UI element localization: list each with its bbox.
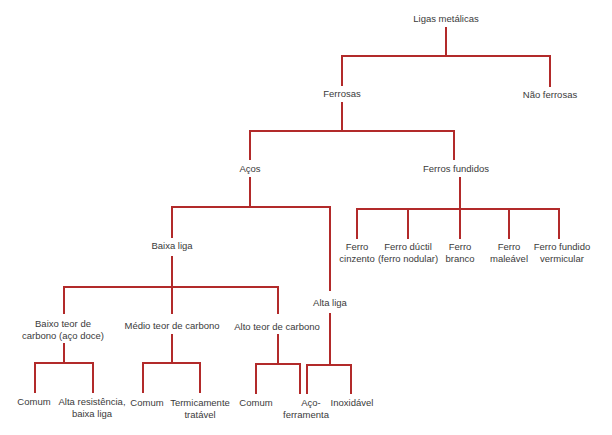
- node-alto-comum: Comum: [239, 397, 272, 409]
- label-line: Ferro fundido: [534, 241, 591, 253]
- label-line: Ferro: [339, 241, 374, 253]
- node-baixa-liga: Baixa liga: [151, 240, 192, 252]
- label-line: Termicamente: [170, 397, 230, 409]
- label-line: tratável: [170, 409, 230, 421]
- node-ligas-metalicas: Ligas metálicas: [413, 13, 478, 25]
- label-line: Aço-: [283, 397, 329, 409]
- node-ferro-ductil: Ferro dúctil(ferro nodular): [378, 241, 438, 265]
- node-ferro-branco: Ferrobranco: [445, 241, 474, 265]
- node-baixo-comum: Comum: [17, 396, 50, 408]
- node-ferro-cinzento: Ferrocinzento: [339, 241, 374, 265]
- node-ferro-maleavel: Ferromaleável: [490, 241, 528, 265]
- label-line: vermicular: [534, 253, 591, 265]
- label-line: branco: [445, 253, 474, 265]
- node-nao-ferrosas: Não ferrosas: [523, 89, 577, 101]
- node-acos: Aços: [239, 163, 260, 175]
- node-ferrosas: Ferrosas: [323, 88, 360, 100]
- label-line: cinzento: [339, 253, 374, 265]
- node-inoxidavel: Inoxidável: [331, 397, 374, 409]
- label-line: (ferro nodular): [378, 253, 438, 265]
- node-alta-liga: Alta liga: [313, 297, 347, 309]
- node-alta-resistencia: Alta resistência,baixa liga: [58, 396, 125, 420]
- node-aco-ferramenta: Aço-ferramenta: [283, 397, 329, 421]
- node-baixo-teor-carbono: Baixo teor decarbono (aço doce): [22, 318, 104, 342]
- node-medio-comum: Comum: [130, 397, 163, 409]
- label-line: ferramenta: [283, 409, 329, 421]
- label-line: Ferro: [445, 241, 474, 253]
- label-line: Ferro dúctil: [378, 241, 438, 253]
- label-line: maleável: [490, 253, 528, 265]
- node-termicamente-tratavel: Termicamentetratável: [170, 397, 230, 421]
- label-line: carbono (aço doce): [22, 330, 104, 342]
- node-ferros-fundidos: Ferros fundidos: [423, 163, 489, 175]
- node-medio-teor-carbono: Médio teor de carbono: [124, 320, 219, 332]
- label-line: Alta resistência,: [58, 396, 125, 408]
- node-alto-teor-carbono: Alto teor de carbono: [234, 321, 320, 333]
- label-line: Baixo teor de: [22, 318, 104, 330]
- node-ferro-vermicular: Ferro fundidovermicular: [534, 241, 591, 265]
- label-line: Ferro: [490, 241, 528, 253]
- label-line: baixa liga: [58, 408, 125, 420]
- tree-connectors: [0, 0, 612, 435]
